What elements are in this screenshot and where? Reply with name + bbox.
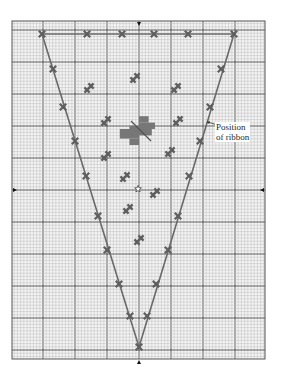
ribbon-position-label: Position of ribbon [215,122,250,142]
label-line-2: of ribbon [216,132,249,142]
label-line-1: Position [216,122,249,132]
cross-stitch-chart [0,0,281,388]
